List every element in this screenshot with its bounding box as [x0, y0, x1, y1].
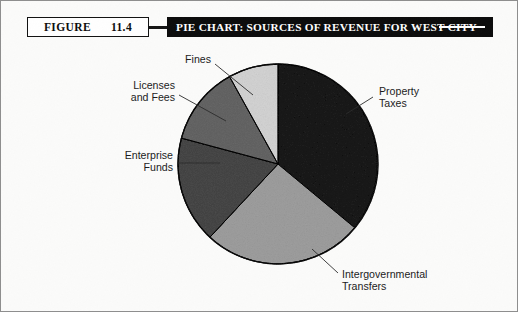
label-intergov-line2: Transfers [342, 280, 386, 292]
pie-slices [178, 64, 378, 264]
figure-page: FIGURE 11.4 PIE CHART: SOURCES OF REVENU… [0, 0, 518, 312]
label-property-line1: Property [379, 85, 420, 97]
label-intergov-line1: Intergovernmental [342, 268, 427, 280]
label-enterprise-line1: Enterprise [125, 149, 173, 161]
label-fines: Fines [185, 53, 211, 65]
label-enterprise-line2: Funds [144, 161, 173, 173]
label-licenses-line1: Licenses [133, 79, 175, 91]
pie-chart: Fines Licenses and Fees Enterprise Funds… [1, 1, 518, 312]
label-licenses-line2: and Fees [131, 91, 175, 103]
label-property-line2: Taxes [379, 97, 407, 109]
